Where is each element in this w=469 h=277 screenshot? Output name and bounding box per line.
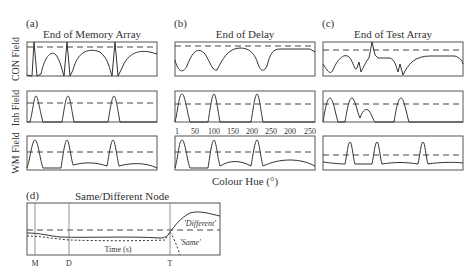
x-tick-1: 50: [191, 127, 199, 136]
panel-a-letter: (a): [26, 17, 39, 30]
panel-b-letter: (b): [174, 17, 187, 30]
marker-m: M: [31, 259, 38, 268]
row-label-con: CON Field: [10, 37, 21, 81]
panel-c-letter: (c): [322, 17, 335, 30]
x-tick-3: 150: [227, 127, 239, 136]
panel-a-title: End of Memory Array: [43, 28, 142, 40]
x-tick-0: 1: [175, 127, 179, 136]
row-label-inh: Inh Field: [10, 90, 21, 126]
x-tick-2: 100: [208, 127, 220, 136]
panel-a-inh-frame: [27, 91, 157, 122]
panel-c-con-frame: [323, 42, 463, 76]
panel-a-wm-frame: [27, 136, 157, 170]
same-annotation: 'Same': [180, 238, 201, 247]
panel-b-con-frame: [175, 42, 315, 76]
panel-d-letter: (d): [26, 189, 39, 202]
x-tick-5: 250: [265, 127, 277, 136]
x-axis-label: Colour Hue (°): [212, 175, 278, 188]
panel-b-title: End of Delay: [216, 28, 275, 40]
figure: (a) End of Memory Array (b) End of Delay…: [0, 0, 469, 277]
marker-t: T: [168, 259, 173, 268]
panel-d-xlabel: Time (s): [104, 245, 131, 254]
different-annotation: 'Different': [184, 219, 216, 228]
row-label-wm: WM Field: [10, 132, 21, 173]
panel-c-title: End of Test Array: [354, 28, 433, 40]
marker-d: D: [66, 259, 72, 268]
panel-c-wm-frame: [323, 136, 463, 170]
panel-c-inh-frame: [323, 91, 463, 122]
x-tick-4: 200: [246, 127, 258, 136]
x-tick-6: 200: [284, 127, 296, 136]
panel-b-inh-frame: [175, 91, 315, 122]
x-tick-7: 250: [304, 127, 316, 136]
panel-d-title: Same/Different Node: [75, 190, 169, 202]
panel-b-wm-frame: [175, 136, 315, 170]
